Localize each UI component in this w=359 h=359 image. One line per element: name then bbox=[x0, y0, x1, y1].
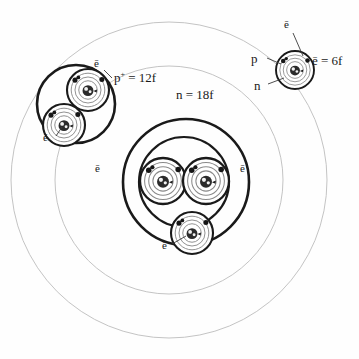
label-electron-value: ē = 6f bbox=[312, 53, 342, 69]
proton-symbol: p bbox=[251, 51, 258, 66]
atom-bottom bbox=[171, 212, 213, 254]
label-electron-upper-left-top: ē bbox=[94, 57, 99, 69]
label-electron-center-right: ē bbox=[240, 162, 245, 174]
atom-upper-left-b bbox=[43, 104, 85, 146]
label-electron-bottom: ē bbox=[162, 239, 167, 251]
atom-group bbox=[43, 51, 314, 254]
atom-center-left bbox=[140, 158, 186, 204]
label-neutron-top-right: n bbox=[254, 78, 261, 94]
label-electron-upper-left-bottom: ē bbox=[43, 131, 48, 143]
label-proton-top-right: p bbox=[251, 51, 258, 67]
atom-upper-left-a bbox=[67, 69, 109, 111]
label-neutron-value: n = 18f bbox=[176, 87, 214, 103]
atom-center-right bbox=[183, 158, 229, 204]
diagram-canvas: ē p n ē = 6f p+ = 12f n = 18f ē ē ē ē ē bbox=[0, 0, 359, 359]
atom-top-right bbox=[276, 51, 314, 89]
proton-value-rest: = 12f bbox=[125, 70, 156, 85]
label-proton-value: p+ = 12f bbox=[114, 70, 156, 86]
atomic-model-svg bbox=[0, 0, 359, 359]
label-electron-center-left: ē bbox=[95, 162, 100, 174]
label-electron-top-right: ē bbox=[284, 18, 289, 30]
